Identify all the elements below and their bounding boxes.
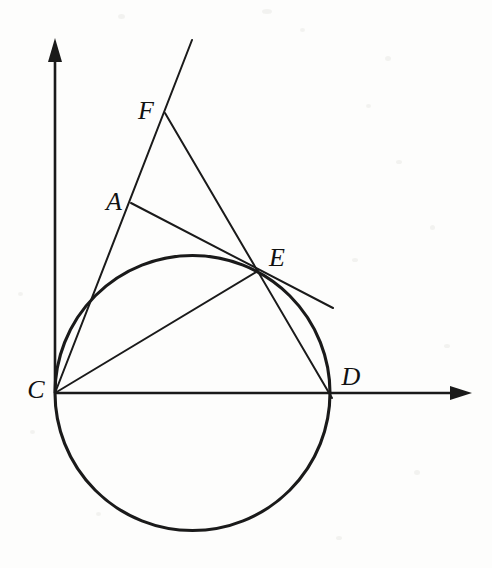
geometry-figure: A C D E F — [0, 0, 492, 568]
y-axis-arrowhead — [48, 38, 62, 62]
line-segment-c-f-extended — [55, 40, 192, 393]
line-segment-a-e-tangent — [131, 203, 333, 308]
line-segment-c-e-chord — [55, 271, 258, 393]
point-label-D: D — [342, 364, 361, 390]
point-label-A: A — [106, 189, 122, 215]
x-axis-arrowhead — [450, 386, 472, 400]
figure-canvas — [0, 0, 492, 568]
point-label-C: C — [27, 377, 44, 403]
point-label-F: F — [138, 98, 154, 124]
point-label-E: E — [269, 245, 285, 271]
